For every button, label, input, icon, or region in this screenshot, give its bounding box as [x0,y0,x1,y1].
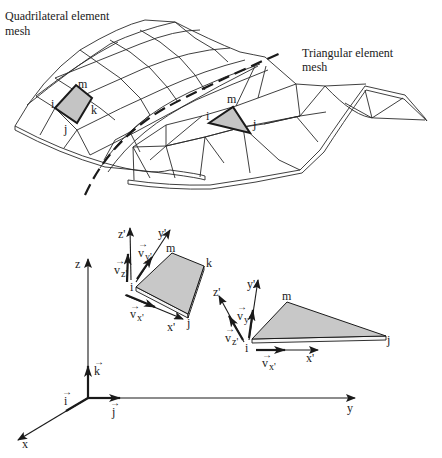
tri-vx-label: v [262,356,268,370]
k-unit-label: k [94,364,100,378]
fe-mesh-diagram: Quadrilateral element mesh m i k j [0,0,442,458]
quad-node-j-local: j [186,316,190,330]
tri-vx-subscript: x' [269,361,276,372]
global-y-label: y [347,401,353,415]
tri-vz-subscript: z' [232,336,238,347]
tri-x-prime-label: x' [306,351,314,365]
tri-mesh-label-line2: mesh [302,60,327,74]
coordinate-panel: z y x → k → j → i z' y' x' m k i j → v [18,226,390,451]
tri-mesh-label-line1: Triangular element [302,46,394,60]
quad-vy-subscript: y' [145,251,152,262]
quad-z-prime-label: z' [118,227,126,241]
quad-node-m: m [78,77,88,91]
tri-y-prime-label: y' [247,277,255,291]
tri-mesh [128,57,427,189]
quad-vz-subscript: z' [121,268,127,279]
mesh-panel: Quadrilateral element mesh m i k j [5,9,427,195]
quad-node-k-local: k [206,256,212,270]
tri-element [209,107,250,133]
tri-vz-label: v [225,331,231,345]
i-unit-vector-icon [66,398,88,411]
tri-z-prime-label: z' [213,285,221,299]
tri-vy-subscript: y' [244,314,251,325]
quad-z-prime-axis [130,228,131,280]
tri-node-i-local: i [245,341,249,355]
quad-mesh-label-line1: Quadrilateral element [5,9,110,23]
quad-vx-subscript: x' [137,312,144,323]
quad-y-prime-label: y' [158,226,166,240]
quad-node-k: k [91,103,97,117]
tri-node-m-local: m [282,289,292,303]
quad-node-m-local: m [166,241,176,255]
tri-node-j: j [252,117,256,131]
tri-plate [252,302,386,339]
quad-x-prime-label: x' [167,320,175,334]
tri-node-i: i [206,109,210,123]
tri-node-m: m [227,92,237,106]
j-unit-label: j [111,405,115,419]
quad-plate [136,253,204,314]
quad-node-i-local: i [130,280,134,294]
quad-vz-label: v [114,263,120,277]
quad-vx-label: v [130,307,136,321]
tri-node-j-local: j [386,333,390,347]
tri-vy-label: v [237,309,243,323]
quad-node-j: j [63,122,67,136]
quad-mesh-label-line2: mesh [5,24,30,38]
quad-vy-label: v [138,246,144,260]
global-z-label: z [75,257,80,271]
global-x-label: x [22,437,28,451]
